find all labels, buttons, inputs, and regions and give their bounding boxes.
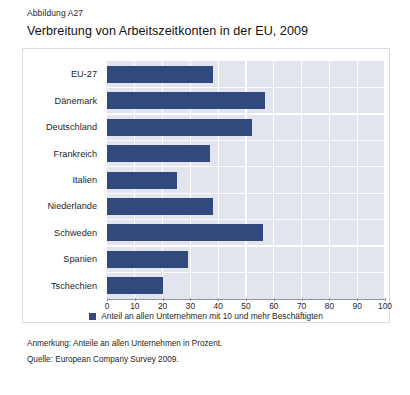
figure-notes: Anmerkung: Anteile an allen Unternehmen … [27, 336, 222, 368]
x-tick-mark [329, 298, 330, 301]
category-label: EU-27 [71, 69, 97, 79]
x-tick-mark [218, 298, 219, 301]
x-tick-mark [385, 298, 386, 301]
bar [107, 92, 265, 109]
bar [107, 198, 213, 215]
figure-label: Abbildung A27 [27, 8, 83, 18]
category-label: Niederlande [47, 201, 97, 211]
x-tick-label: 90 [353, 301, 362, 311]
bar [107, 145, 210, 162]
x-tick-label: 50 [241, 301, 250, 311]
category-label: Frankreich [54, 149, 97, 159]
x-tick-mark [163, 298, 164, 301]
x-tick-mark [274, 298, 275, 301]
x-tick-label: 20 [158, 301, 167, 311]
legend: Anteil an allen Unternehmen mit 10 und m… [23, 311, 389, 321]
category-label: Italien [72, 175, 97, 185]
x-tick-label: 30 [186, 301, 195, 311]
x-tick-mark [107, 298, 108, 301]
x-tick-label: 10 [130, 301, 139, 311]
source-note: Quelle: European Company Survey 2009. [27, 352, 222, 368]
legend-label: Anteil an allen Unternehmen mit 10 und m… [101, 311, 323, 321]
category-label: Deutschland [46, 122, 97, 132]
x-tick-label: 100 [378, 301, 392, 311]
bar [107, 119, 252, 136]
x-tick-label: 70 [297, 301, 306, 311]
x-tick-label: 60 [269, 301, 278, 311]
x-tick-label: 0 [105, 301, 110, 311]
annotation-note: Anmerkung: Anteile an allen Unternehmen … [27, 336, 222, 352]
category-label: Spanien [63, 254, 97, 264]
category-label: Tschechien [51, 281, 97, 291]
bar [107, 277, 163, 294]
plot-area [107, 61, 385, 299]
bar [107, 224, 263, 241]
x-tick-mark [357, 298, 358, 301]
page-title: Verbreitung von Arbeitszeitkonten in der… [27, 24, 308, 38]
figure-page: Abbildung A27 Verbreitung von Arbeitszei… [0, 0, 410, 395]
category-label: Dänemark [55, 96, 97, 106]
category-label: Schweden [54, 228, 97, 238]
category-axis: EU-27DänemarkDeutschlandFrankreichItalie… [23, 61, 103, 299]
x-tick-label: 40 [214, 301, 223, 311]
bar [107, 172, 177, 189]
x-tick-mark [135, 298, 136, 301]
x-tick-mark [302, 298, 303, 301]
legend-swatch-icon [89, 313, 96, 320]
x-tick-label: 80 [325, 301, 334, 311]
bar [107, 66, 213, 83]
bar [107, 251, 188, 268]
x-tick-mark [246, 298, 247, 301]
chart-frame: EU-27DänemarkDeutschlandFrankreichItalie… [22, 48, 390, 323]
x-tick-mark [190, 298, 191, 301]
bar-series [107, 61, 385, 299]
